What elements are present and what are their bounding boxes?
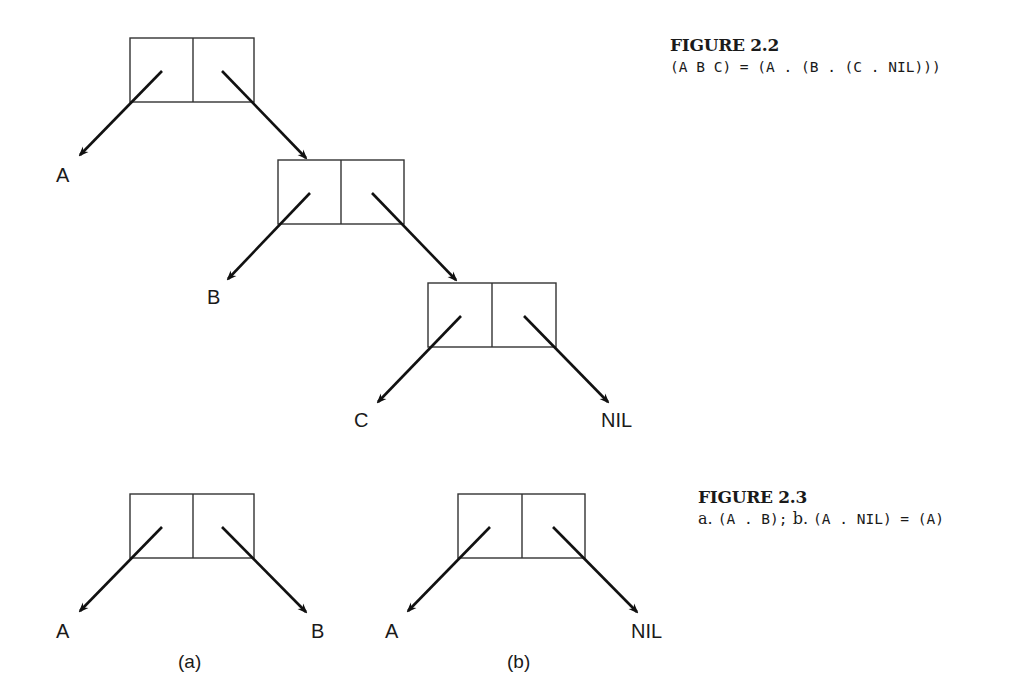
caption-part-b-prefix: b.: [788, 509, 814, 528]
subfigure-label-b: (b): [507, 651, 530, 672]
subfigure-label-a: (a): [178, 651, 201, 672]
figure-caption-text: a. (A . B); b. (A . NIL) = (A): [698, 508, 944, 530]
car-pointer-arrow-icon: [228, 193, 310, 279]
car-pointer-arrow-icon: [80, 527, 162, 611]
atom-label-nil: NIL: [601, 409, 632, 431]
figure-title: FIGURE 2.2: [670, 34, 941, 56]
cdr-pointer-arrow-icon: [524, 316, 608, 402]
atom-label-c: C: [354, 409, 368, 431]
car-pointer-arrow-icon: [80, 71, 162, 155]
caption-part-a-prefix: a.: [698, 509, 718, 528]
figure-2-3b-diagram: A NIL (b): [385, 494, 662, 672]
atom-label-b: B: [311, 620, 324, 642]
atom-label-a: A: [56, 164, 70, 186]
cons-cell-box: [130, 494, 254, 558]
cons-cell-2: [228, 160, 456, 280]
figure-caption-text: (A B C) = (A . (B . (C . NIL))): [670, 56, 941, 78]
cons-cell-3: [378, 283, 608, 402]
figure-2-3-caption: FIGURE 2.3 a. (A . B); b. (A . NIL) = (A…: [698, 486, 944, 530]
atom-label-a: A: [385, 620, 399, 642]
atom-label-nil: NIL: [631, 620, 662, 642]
car-pointer-arrow-icon: [378, 316, 461, 402]
car-pointer-arrow-icon: [408, 527, 490, 611]
atom-label-b: B: [207, 286, 220, 308]
figure-2-2-diagram: A B C NIL: [56, 38, 632, 431]
caption-part-a-expr: (A . B);: [718, 511, 788, 527]
figure-2-3a-diagram: A B (a): [56, 494, 324, 672]
atom-label-a: A: [56, 620, 70, 642]
cdr-pointer-arrow-icon: [222, 71, 306, 158]
cons-cell-1: [80, 38, 306, 158]
cons-cell-box: [130, 38, 254, 102]
cdr-pointer-arrow-icon: [222, 527, 306, 612]
cdr-pointer-arrow-icon: [372, 193, 456, 280]
figure-title: FIGURE 2.3: [698, 486, 944, 508]
cdr-pointer-arrow-icon: [553, 527, 637, 612]
caption-part-b-expr: (A . NIL) = (A): [813, 511, 944, 527]
cons-cell-diagrams: A B C NIL A B (a) A: [0, 0, 1030, 695]
figure-2-2-caption: FIGURE 2.2 (A B C) = (A . (B . (C . NIL)…: [670, 34, 941, 78]
